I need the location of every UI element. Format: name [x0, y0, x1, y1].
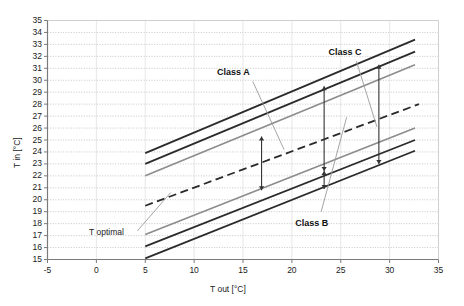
y-axis-tick-label: 16 [18, 242, 42, 252]
x-axis-tick-label: -5 [33, 265, 63, 275]
chart-canvas [0, 0, 464, 306]
y-axis-tick-label: 21 [18, 182, 42, 192]
y-axis-tick-label: 29 [18, 87, 42, 97]
x-axis-tick-label: 0 [81, 265, 111, 275]
y-axis-tick-label: 20 [18, 194, 42, 204]
y-axis-title: T in [°C] [12, 137, 22, 168]
x-axis-tick-label: 15 [228, 265, 258, 275]
y-axis-tick-label: 35 [18, 15, 42, 25]
x-axis-tick-label: 25 [326, 265, 356, 275]
y-axis-tick-label: 26 [18, 123, 42, 133]
y-axis-tick-label: 17 [18, 230, 42, 240]
y-axis-tick-label: 32 [18, 51, 42, 61]
x-axis-tick-label: 30 [375, 265, 405, 275]
annotation-class-b: Class B [295, 218, 328, 228]
x-axis-tick-label: 10 [179, 265, 209, 275]
chart-figure: 1516171819202122232425262728293031323334… [0, 0, 464, 306]
y-axis-tick-label: 31 [18, 63, 42, 73]
y-axis-tick-label: 18 [18, 218, 42, 228]
y-axis-tick-label: 33 [18, 39, 42, 49]
y-axis-tick-label: 15 [18, 254, 42, 264]
annotation-t-optimal: T optimal [89, 227, 124, 237]
y-axis-tick-label: 19 [18, 206, 42, 216]
y-axis-tick-label: 27 [18, 111, 42, 121]
y-axis-tick-label: 22 [18, 170, 42, 180]
y-axis-tick-label: 34 [18, 27, 42, 37]
x-axis-title: T out [°C] [210, 284, 246, 294]
x-axis-tick-label: 35 [424, 265, 454, 275]
x-axis-tick-label: 20 [277, 265, 307, 275]
annotation-class-c: Class C [329, 47, 362, 57]
annotation-class-a: Class A [217, 67, 250, 77]
y-axis-tick-label: 28 [18, 99, 42, 109]
y-axis-tick-label: 30 [18, 75, 42, 85]
x-axis-tick-label: 5 [130, 265, 160, 275]
